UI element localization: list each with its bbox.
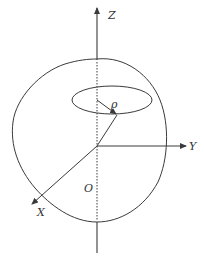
y-axis-label: Y [189,140,198,153]
origin-label: O [84,182,93,195]
body-outline [12,59,166,222]
x-axis-label: X [36,206,46,219]
radius-label: ρ [110,98,118,111]
x-axis [32,146,97,204]
coordinate-diagram: Z Y X O ρ [0,0,204,261]
z-axis-label: Z [107,9,116,22]
position-vector [97,115,117,146]
